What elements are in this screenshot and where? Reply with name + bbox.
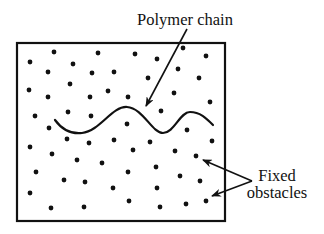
obstacle-dot (33, 114, 38, 119)
obstacle-dot (111, 186, 116, 191)
obstacle-dot (158, 205, 163, 210)
obstacle-dot (126, 95, 131, 100)
obstacle-dot (184, 202, 189, 207)
obstacle-dot (197, 76, 202, 81)
obstacle-dot (75, 158, 80, 163)
obstacle-dot (112, 138, 117, 143)
obstacle-dot (126, 170, 131, 175)
obstacle-dot (28, 145, 33, 150)
obstacle-dot (106, 89, 111, 94)
obstacle-arrow-upper (203, 160, 252, 181)
fixed-obstacles-label-line2: obstacles (247, 183, 307, 202)
polymer-chain-curve (55, 107, 213, 133)
obstacle-dot (96, 51, 101, 56)
obstacle-dot (173, 149, 178, 154)
polymer-chain-arrow (146, 29, 187, 106)
obstacle-dot (100, 161, 105, 166)
obstacle-dot (172, 91, 177, 96)
obstacle-dot (146, 76, 151, 81)
obstacle-dot (65, 137, 70, 142)
obstacle-dot (83, 180, 88, 185)
obstacle-dot (62, 178, 67, 183)
polymer-chain-label: Polymer chain (137, 10, 233, 29)
obstacle-dot (181, 46, 186, 51)
obstacle-dot (47, 126, 52, 131)
obstacle-dot (178, 174, 183, 179)
obstacle-dot (28, 191, 33, 196)
obstacle-dot (66, 110, 71, 115)
obstacle-dot (133, 52, 138, 57)
obstacle-dot (34, 170, 39, 175)
obstacle-dot (49, 206, 54, 211)
obstacle-dot (52, 50, 57, 55)
obstacle-dot (125, 122, 130, 127)
obstacle-dot (46, 70, 51, 75)
obstacle-dot (155, 186, 160, 191)
obstacle-dot (154, 165, 159, 170)
obstacle-dot (27, 88, 32, 93)
obstacle-dot (68, 82, 73, 87)
obstacle-dot (210, 139, 215, 144)
polymer-obstacles-diagram: Polymer chain Fixed obstacles (0, 0, 324, 234)
obstacle-dot (185, 128, 190, 133)
obstacle-dot (159, 109, 164, 114)
obstacle-dot (88, 95, 93, 100)
obstacle-dot (82, 205, 87, 210)
obstacle-dot (89, 114, 94, 119)
obstacle-dot (71, 62, 76, 67)
obstacle-dot (208, 100, 213, 105)
obstacle-dot (131, 148, 136, 153)
obstacle-dot (155, 57, 160, 62)
obstacle-dot (176, 67, 181, 72)
fixed-obstacles-group (27, 46, 215, 211)
obstacle-dot (46, 95, 51, 100)
obstacle-dot (127, 199, 132, 204)
obstacle-dot (90, 71, 95, 76)
obstacle-dot (198, 179, 203, 184)
obstacle-dot (28, 60, 33, 65)
obstacle-dot (112, 70, 117, 75)
obstacle-dot (204, 54, 209, 59)
obstacle-dot (148, 140, 153, 145)
obstacle-dot (194, 154, 199, 159)
obstacle-dot (50, 152, 55, 157)
obstacle-dot (204, 199, 209, 204)
obstacle-dot (87, 141, 92, 146)
